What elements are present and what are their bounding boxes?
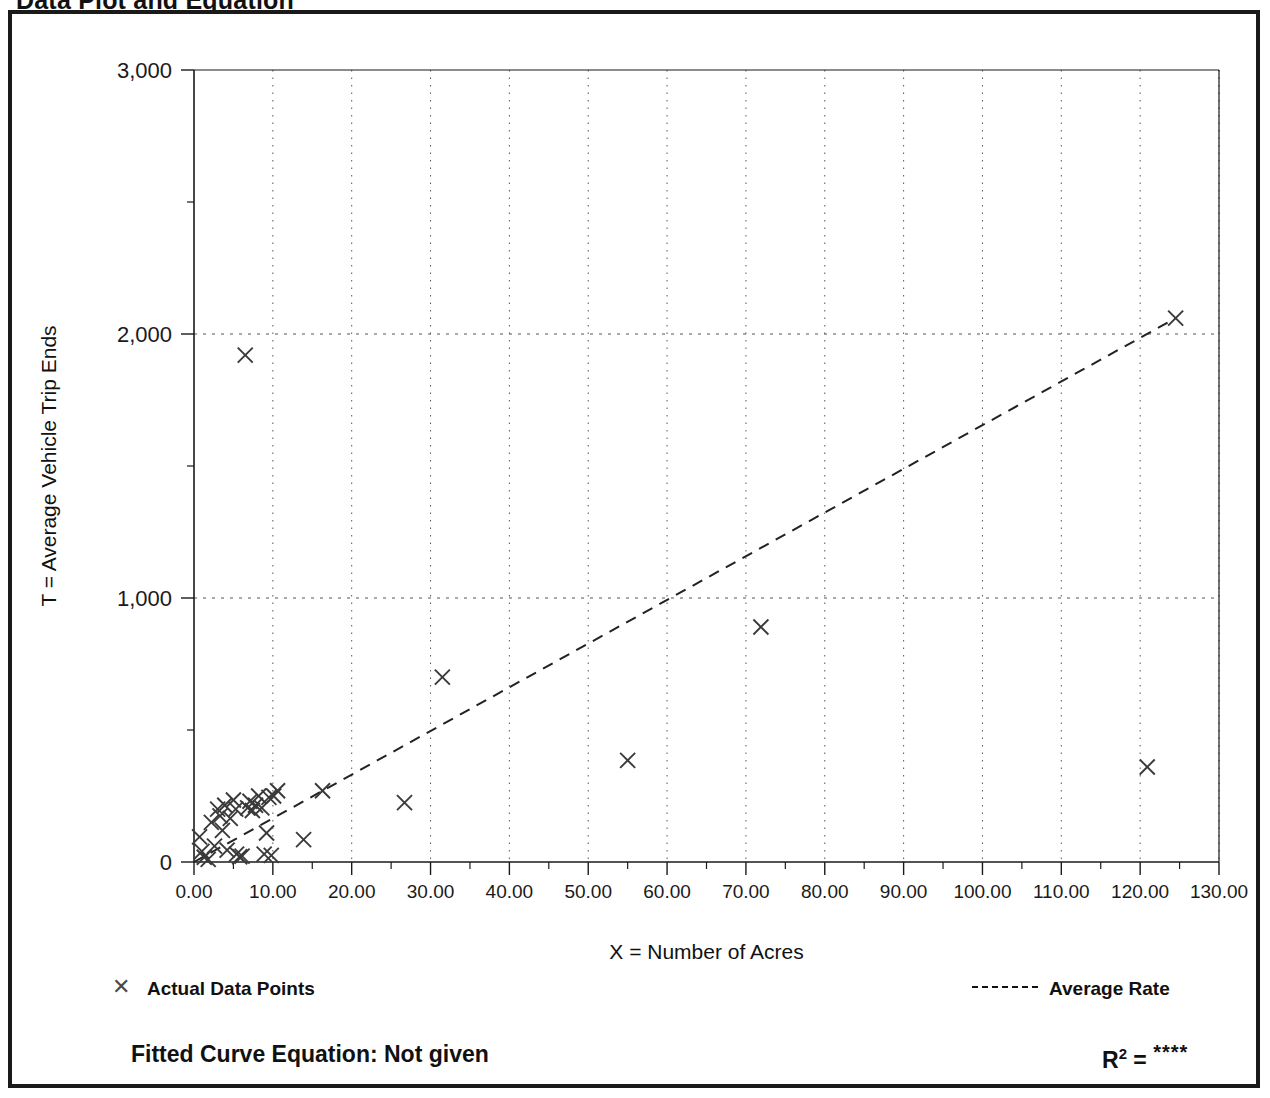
data-point-marker xyxy=(620,753,635,768)
y-tick-label: 2,000 xyxy=(117,322,172,347)
r-squared-stars: **** xyxy=(1153,1041,1188,1063)
legend-x-marker-icon: ✕ xyxy=(112,976,130,998)
data-point-marker xyxy=(245,803,260,818)
data-point-marker xyxy=(397,795,412,810)
data-point-marker xyxy=(238,348,253,363)
r-squared-prefix: R xyxy=(1102,1047,1119,1073)
data-point-marker xyxy=(315,783,330,798)
axis-ticks xyxy=(181,70,1219,875)
x-axis-title: X = Number of Acres xyxy=(609,940,803,963)
data-point-marker xyxy=(753,620,768,635)
x-tick-label: 30.00 xyxy=(407,881,455,902)
x-tick-labels: 0.0010.0020.0030.0040.0050.0060.0070.008… xyxy=(176,881,1249,902)
x-tick-label: 80.00 xyxy=(801,881,849,902)
x-tick-label: 20.00 xyxy=(328,881,376,902)
x-tick-label: 40.00 xyxy=(486,881,534,902)
x-tick-label: 120.00 xyxy=(1111,881,1169,902)
y-tick-label: 0 xyxy=(160,850,172,875)
legend-average-rate-dash-icon xyxy=(972,986,1038,988)
x-tick-label: 60.00 xyxy=(643,881,691,902)
axis-lines xyxy=(194,70,1219,862)
data-point-marker xyxy=(204,815,219,830)
x-tick-label: 110.00 xyxy=(1033,881,1090,902)
x-tick-label: 50.00 xyxy=(564,881,612,902)
legend-average-rate-label: Average Rate xyxy=(1049,978,1170,1000)
r-squared-value: R2 = **** xyxy=(1102,1041,1188,1074)
y-tick-label: 1,000 xyxy=(117,586,172,611)
chart-area: 0.0010.0020.0030.0040.0050.0060.0070.008… xyxy=(12,14,1264,1092)
data-point-marker xyxy=(1140,759,1155,774)
grid-lines xyxy=(194,70,1219,862)
average-rate-line xyxy=(194,318,1176,862)
data-point-marker xyxy=(296,832,311,847)
data-point-marker xyxy=(435,670,450,685)
scatter-plot-svg: 0.0010.0020.0030.0040.0050.0060.0070.008… xyxy=(12,14,1264,1092)
y-axis-title: T = Average Vehicle Trip Ends xyxy=(37,325,60,606)
fitted-curve-equation: Fitted Curve Equation: Not given xyxy=(131,1041,489,1068)
x-tick-label: 90.00 xyxy=(880,881,928,902)
data-point-markers xyxy=(192,311,1183,867)
data-point-marker xyxy=(259,825,274,840)
y-tick-label: 3,000 xyxy=(117,58,172,83)
r-squared-exponent: 2 xyxy=(1119,1045,1127,1062)
x-tick-label: 100.00 xyxy=(953,881,1011,902)
x-tick-label: 10.00 xyxy=(249,881,297,902)
data-point-marker xyxy=(270,783,285,798)
y-tick-labels: 01,0002,0003,000 xyxy=(117,58,172,875)
figure-frame: 0.0010.0020.0030.0040.0050.0060.0070.008… xyxy=(8,10,1260,1088)
x-tick-label: 130.00 xyxy=(1190,881,1248,902)
r-squared-equals: = xyxy=(1127,1047,1153,1073)
x-tick-label: 70.00 xyxy=(722,881,770,902)
legend-actual-data-points-label: Actual Data Points xyxy=(147,978,315,1000)
x-tick-label: 0.00 xyxy=(176,881,213,902)
data-point-marker xyxy=(1168,311,1183,326)
